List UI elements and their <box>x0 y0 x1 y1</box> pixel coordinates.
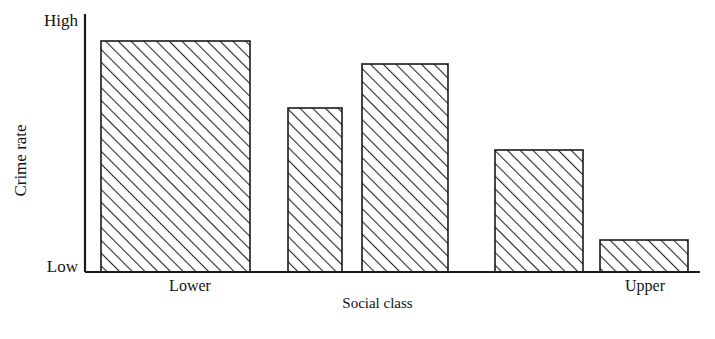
bar-1 <box>101 41 250 272</box>
bar-chart-figure: High Low Crime rate Lower Upper Social c… <box>0 0 715 339</box>
x-axis-title: Social class <box>0 296 715 311</box>
bar-3 <box>362 64 448 272</box>
bars-group <box>101 41 688 272</box>
x-axis-category-lower: Lower <box>130 278 250 294</box>
bar-5 <box>600 240 688 272</box>
bar-4 <box>495 150 583 272</box>
bar-2 <box>288 108 342 272</box>
x-axis-category-upper: Upper <box>585 278 705 294</box>
